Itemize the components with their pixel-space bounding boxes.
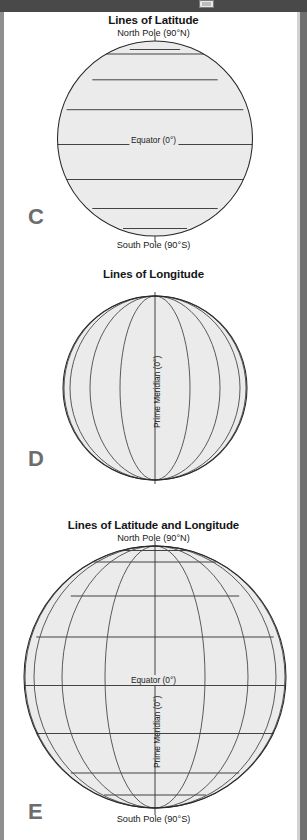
figure-e-south-pole-label: South Pole (90°S)	[0, 814, 307, 824]
figure-e-globe	[0, 505, 307, 840]
figure-d-prime-meridian-label: Prime Meridian (0°)	[152, 354, 162, 430]
figure-c-equator-label: Equator (0°)	[129, 135, 178, 145]
figure-e-prime-meridian-label: Prime Meridian (0°)	[152, 694, 162, 770]
figure-e-equator-label: Equator (0°)	[129, 675, 178, 685]
figure-c: Lines of Latitude North Pole (90°N)	[0, 0, 307, 250]
figure-letter-e: E	[28, 801, 43, 823]
figure-letter-d: D	[28, 448, 44, 470]
figure-e: Lines of Latitude and Longitude North Po…	[0, 505, 307, 840]
figure-c-globe	[0, 0, 307, 250]
figure-letter-c: C	[28, 206, 44, 228]
figure-d: Lines of Longitude Prime Meridian (0°) D	[0, 255, 307, 485]
screenshot-root: Lines of Latitude North Pole (90°N)	[0, 0, 307, 840]
figure-c-south-pole-label: South Pole (90°S)	[0, 240, 307, 250]
